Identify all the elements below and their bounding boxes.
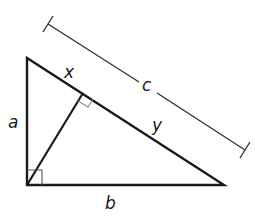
label-b: b	[105, 193, 116, 213]
label-x: x	[63, 62, 75, 82]
label-c: c	[142, 75, 152, 95]
triangle-diagram: x c y a b	[0, 0, 255, 217]
altitude-segment	[27, 93, 83, 185]
label-a: a	[8, 112, 18, 132]
label-y: y	[151, 115, 163, 135]
right-triangle	[27, 58, 224, 185]
